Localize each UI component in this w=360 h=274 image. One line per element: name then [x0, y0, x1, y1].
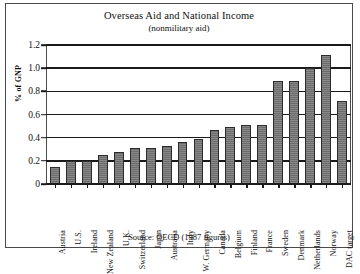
bar: [98, 155, 108, 184]
title-block: Overseas Aid and National Income (nonmil…: [6, 9, 352, 34]
bar: [50, 167, 60, 184]
bar-slot: [241, 45, 251, 184]
y-axis-label: % of GNP: [14, 65, 23, 102]
y-tick-mark: [41, 114, 46, 116]
bar-slot: [82, 45, 92, 184]
y-tick-label: 0.2: [28, 156, 40, 166]
bar-slot: [130, 45, 140, 184]
bar: [273, 81, 283, 184]
page-title: Overseas Aid and National Income: [6, 9, 352, 22]
bar-slot: [225, 45, 235, 184]
y-tick-label: 1.2: [28, 40, 40, 50]
bar-slot: [305, 45, 315, 184]
y-tick-label: 1.0: [28, 63, 40, 73]
bar-slot: [66, 45, 76, 184]
bar-slot: [114, 45, 124, 184]
y-tick-label: 0.4: [28, 133, 40, 143]
bar-slot: [50, 45, 60, 184]
x-axis-category-labels: AustriaU.S.IrelandNew ZealandU.K.Switzer…: [47, 188, 350, 232]
bar-slot: [210, 45, 220, 184]
bar-series: [47, 45, 350, 184]
source-note: Source: OECD (1987 figures): [6, 232, 352, 242]
bar: [225, 127, 235, 184]
bar-slot: [289, 45, 299, 184]
y-tick-mark: [41, 67, 46, 69]
bar: [305, 68, 315, 184]
chart-figure: Overseas Aid and National Income (nonmil…: [5, 3, 353, 248]
bar: [321, 55, 331, 184]
bar-slot: [194, 45, 204, 184]
bar: [241, 125, 251, 184]
bar: [82, 161, 92, 184]
bar-slot: [98, 45, 108, 184]
y-tick-label: 0: [35, 179, 40, 189]
bar-slot: [273, 45, 283, 184]
bar-slot: [257, 45, 267, 184]
bar-slot: [162, 45, 172, 184]
y-tick-label: 0.8: [28, 86, 40, 96]
bar-slot: [321, 45, 331, 184]
bar: [210, 130, 220, 184]
bar: [162, 146, 172, 184]
bar: [289, 81, 299, 184]
bar: [257, 125, 267, 184]
bar: [337, 101, 347, 184]
bar-slot: [178, 45, 188, 184]
bar: [66, 161, 76, 184]
bar-slot: [337, 45, 347, 184]
bar: [178, 142, 188, 184]
bar: [114, 152, 124, 184]
y-tick-label: 0.6: [28, 110, 40, 120]
bar: [130, 148, 140, 184]
y-tick-mark: [41, 160, 46, 162]
y-tick-mark: [41, 91, 46, 93]
bar: [194, 139, 204, 184]
y-tick-mark: [41, 44, 46, 46]
x-axis-line: [46, 183, 351, 185]
bar: [146, 148, 156, 184]
chart-subtitle: (nonmilitary aid): [6, 22, 352, 34]
bar-slot: [146, 45, 156, 184]
y-tick-mark: [41, 137, 46, 139]
